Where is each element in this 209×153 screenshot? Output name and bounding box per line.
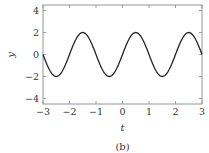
tick-labels: −3−2−10123−4−2024	[25, 5, 205, 117]
x-axis-label: t	[120, 122, 125, 133]
x-tick-label: −1	[89, 106, 103, 117]
y-tick-label: 2	[33, 27, 39, 38]
y-tick-label: −2	[25, 71, 39, 82]
y-tick-label: 4	[33, 5, 39, 16]
figure-caption: (b)	[115, 141, 129, 152]
y-axis-label: y	[5, 52, 16, 59]
chart: −3−2−10123−4−2024 t y (b)	[0, 0, 209, 153]
y-tick-label: −4	[25, 93, 39, 104]
data-series-line	[43, 33, 202, 77]
x-tick-label: −2	[62, 106, 76, 117]
x-tick-label: 0	[119, 106, 125, 117]
x-tick-label: 2	[172, 106, 178, 117]
x-tick-label: 3	[199, 106, 205, 117]
y-tick-label: 0	[33, 49, 39, 60]
x-tick-label: 1	[146, 106, 152, 117]
x-tick-label: −3	[36, 106, 50, 117]
